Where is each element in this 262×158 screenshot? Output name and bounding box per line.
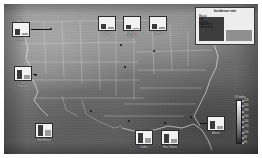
- chart-panel: [161, 130, 179, 145]
- bar-squamous-cell: [24, 75, 30, 79]
- city-chart-san-francisco[interactable]: San Francisco: [14, 66, 32, 88]
- colorbar-tick: 160: [242, 115, 248, 118]
- chart-bars: [38, 124, 51, 136]
- colorbar-tick: 140: [242, 121, 248, 124]
- map-plate: SeattleSan FranciscoNew MexicoIowaMinn./…: [4, 4, 258, 154]
- site-marker-minn-st-paul[interactable]: [120, 44, 122, 46]
- colorbar-tick-label: 180: [244, 110, 248, 113]
- city-label: Atlanta: [207, 132, 225, 135]
- city-label: Minn./ St. Paul: [123, 32, 141, 38]
- legend-title: Incidence rate: [198, 9, 253, 13]
- colorbar-tick: 100: [242, 131, 248, 134]
- site-marker-dallas[interactable]: [128, 120, 130, 122]
- city-chart-new-orleans[interactable]: New Orleans: [161, 130, 179, 149]
- legend-bar-squamous: [226, 30, 252, 41]
- chart-panel: [14, 66, 32, 81]
- bar-squamous-cell: [133, 28, 139, 29]
- chart-bars: [152, 17, 165, 29]
- colorbar-tick-label: 200: [244, 105, 248, 108]
- colorbar-tick-label: 120: [244, 126, 248, 129]
- leader-line: [31, 29, 50, 30]
- bar-basal-cell: [38, 125, 44, 136]
- colorbar-tick-label: 220: [244, 99, 248, 102]
- bar-basal-cell: [152, 24, 158, 29]
- legend-key-box[interactable]: Incidence rate Basal cell cancer Squamou…: [195, 7, 255, 45]
- site-marker-iowa[interactable]: [124, 66, 126, 68]
- city-label: Iowa: [98, 32, 116, 35]
- city-chart-dallas[interactable]: Dallas: [135, 130, 153, 149]
- site-marker-new-orleans[interactable]: [164, 122, 166, 124]
- city-label: Seattle: [12, 38, 30, 41]
- city-label: Dallas: [135, 146, 153, 149]
- chart-bars: [101, 17, 114, 29]
- legend-label-squamous: Squamous cell cancer: [199, 23, 213, 30]
- city-label: New Mexico: [35, 139, 53, 142]
- chart-bars: [210, 117, 223, 129]
- chart-panel: [123, 16, 141, 31]
- chart-panel: [12, 22, 30, 37]
- bar-basal-cell: [17, 70, 23, 79]
- city-chart-seattle[interactable]: Seattle: [12, 22, 30, 41]
- bar-squamous-cell: [45, 130, 51, 136]
- colorbar-tick-label: 140: [244, 121, 248, 124]
- chart-panel: [207, 116, 225, 131]
- site-marker-detroit[interactable]: [153, 50, 155, 52]
- colorbar-tick-label: 160: [244, 115, 248, 118]
- leader-line: [200, 123, 207, 124]
- city-label: Detroit: [149, 32, 167, 35]
- bar-squamous-cell: [108, 27, 114, 29]
- bar-squamous-cell: [171, 139, 177, 143]
- chart-bars: [15, 23, 28, 35]
- colorbar-tick: 200: [242, 105, 248, 108]
- chart-bars: [17, 67, 30, 79]
- colorbar-tick: 60: [242, 142, 247, 145]
- bar-basal-cell: [101, 24, 107, 29]
- colorbar-tick-label: 60: [244, 142, 247, 145]
- chart-panel: [149, 16, 167, 31]
- bar-squamous-cell: [159, 27, 165, 29]
- chart-bars: [164, 131, 177, 143]
- site-marker-san-francisco[interactable]: [35, 74, 37, 76]
- legend-col-squamous: [226, 14, 252, 41]
- bar-basal-cell: [126, 25, 132, 29]
- colorbar-tick: 180: [242, 110, 248, 113]
- site-marker-new-mexico[interactable]: [90, 110, 92, 112]
- colorbar-tick-label: 100: [244, 131, 248, 134]
- city-chart-new-mexico[interactable]: New Mexico: [35, 123, 53, 142]
- bar-basal-cell: [210, 121, 216, 129]
- bar-basal-cell: [164, 134, 170, 143]
- bar-basal-cell: [15, 29, 21, 35]
- bar-squamous-cell: [217, 126, 223, 129]
- city-label: New Orleans: [161, 146, 179, 149]
- chart-bars: [138, 131, 151, 143]
- colorbar[interactable]: UV index 2202001801601401201008060: [236, 100, 242, 144]
- chart-bars: [126, 17, 139, 29]
- colorbar-ticks: 2202001801601401201008060: [242, 100, 255, 144]
- chart-panel: [135, 130, 153, 145]
- figure-root: SeattleSan FranciscoNew MexicoIowaMinn./…: [0, 0, 262, 158]
- city-chart-detroit[interactable]: Detroit: [149, 16, 167, 35]
- bar-basal-cell: [138, 133, 144, 143]
- colorbar-tick: 220: [242, 99, 248, 102]
- site-marker-seattle[interactable]: [50, 28, 52, 30]
- city-chart-atlanta[interactable]: Atlanta: [207, 116, 225, 135]
- site-marker-atlanta[interactable]: [190, 116, 192, 118]
- colorbar-tick-label: 80: [244, 136, 247, 139]
- bar-squamous-cell: [145, 138, 151, 143]
- chart-panel: [98, 16, 116, 31]
- city-chart-minn-st-paul[interactable]: Minn./ St. Paul: [123, 16, 141, 38]
- city-chart-iowa[interactable]: Iowa: [98, 16, 116, 35]
- colorbar-tick: 120: [242, 126, 248, 129]
- colorbar-tick: 80: [242, 136, 247, 139]
- chart-panel: [35, 123, 53, 138]
- city-label: San Francisco: [14, 82, 32, 88]
- bar-squamous-cell: [22, 33, 28, 35]
- legend-bars: Basal cell cancer Squamous cell cancer: [198, 14, 253, 42]
